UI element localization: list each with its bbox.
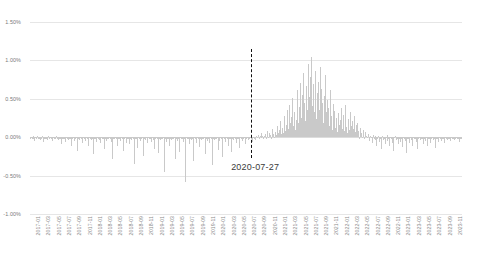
bar [372, 137, 373, 143]
x-tick-label: 2019-05 [179, 216, 185, 235]
bar [398, 137, 399, 144]
bar [212, 137, 213, 165]
bar [100, 137, 101, 143]
bar [263, 137, 264, 139]
bar [409, 137, 410, 143]
x-tick-label: 2021-09 [323, 216, 329, 235]
bar [393, 137, 394, 151]
bar [402, 137, 403, 147]
x-tick-label: 2017-09 [76, 216, 82, 235]
bar [389, 137, 390, 146]
bar [179, 137, 180, 152]
bar [218, 137, 219, 150]
y-tick-label: 1.00% [0, 57, 21, 63]
x-tick-label: 2017-01 [35, 216, 41, 235]
x-tick-label: 2023-03 [416, 216, 422, 235]
x-tick-label: 2023-07 [436, 216, 442, 235]
bar [36, 137, 37, 139]
bar [362, 137, 363, 138]
bar [41, 137, 42, 139]
x-tick-label: 2022-01 [344, 216, 350, 235]
x-tick-label: 2019-09 [200, 216, 206, 235]
x-tick-label: 2022-07 [375, 216, 381, 235]
x-tick-label: 2017-03 [45, 216, 51, 235]
x-tick-label: 2020-07 [251, 216, 257, 235]
bar [236, 137, 237, 142]
bar [123, 137, 124, 151]
bar [158, 137, 159, 153]
x-tick-label: 2020-01 [220, 216, 226, 235]
bar [257, 137, 258, 138]
bar [394, 137, 395, 138]
bar [47, 137, 48, 140]
bar [364, 137, 365, 139]
x-tick-label: 2022-11 [395, 216, 401, 235]
x-tick-label: 2019-01 [159, 216, 165, 235]
x-tick-label: 2019-11 [210, 216, 216, 235]
bar [444, 137, 445, 143]
bar [93, 137, 94, 154]
bar [143, 137, 144, 155]
bar [274, 137, 275, 138]
x-tick-label: 2020-09 [261, 216, 267, 235]
bar [104, 137, 105, 149]
bar [185, 137, 186, 182]
x-tick-label: 2023-09 [447, 216, 453, 235]
bar [112, 137, 113, 159]
bar [55, 137, 56, 139]
bar [189, 137, 190, 144]
x-tick-label: 2017-11 [87, 216, 93, 235]
bar [222, 137, 223, 157]
x-tick-label: 2020-11 [272, 216, 278, 235]
x-tick-label: 2023-11 [457, 216, 463, 235]
x-tick-label: 2017-07 [66, 216, 72, 235]
x-tick-label: 2023-05 [426, 216, 432, 235]
bar [82, 137, 83, 142]
bar [255, 137, 256, 138]
x-tick-label: 2020-03 [231, 216, 237, 235]
x-tick-label: 2021-11 [333, 216, 339, 235]
bar [412, 137, 413, 145]
bar [137, 137, 138, 148]
x-tick-label: 2018-09 [138, 216, 144, 235]
bar [271, 137, 272, 139]
x-tick-label: 2017-05 [56, 216, 62, 235]
bar [386, 137, 387, 138]
x-tick-label: 2023-01 [405, 216, 411, 235]
event-marker-line [251, 49, 252, 158]
y-tick-label: -0.50% [0, 173, 21, 179]
bar [196, 137, 197, 142]
bar [377, 137, 378, 139]
bar [164, 137, 165, 172]
bar [406, 137, 407, 153]
bar [268, 137, 269, 138]
event-marker-label: 2020-07-27 [231, 162, 279, 172]
x-tick-label: 2021-07 [313, 216, 319, 235]
x-tick-label: 2020-05 [241, 216, 247, 235]
x-tick-label: 2019-07 [189, 216, 195, 235]
bar [381, 137, 382, 149]
gridline [30, 214, 462, 215]
y-tick-label: 0.00% [0, 134, 21, 140]
bar [175, 137, 176, 159]
y-tick-label: 1.50% [0, 19, 21, 25]
bar [359, 137, 360, 139]
bar [259, 137, 260, 139]
y-tick-label: 0.50% [0, 96, 21, 102]
bar [266, 137, 267, 139]
bar [77, 137, 78, 151]
bar [193, 137, 194, 161]
bar [375, 137, 376, 140]
x-tick-label: 2018-11 [148, 216, 154, 235]
bar [417, 137, 418, 149]
bar [209, 137, 210, 143]
x-tick-label: 2019-03 [169, 216, 175, 235]
x-tick-label: 2018-07 [128, 216, 134, 235]
bar [261, 137, 262, 138]
x-tick-label: 2018-05 [117, 216, 123, 235]
bar [205, 137, 206, 154]
x-tick-label: 2021-03 [292, 216, 298, 235]
plot-area: 2020-07-27 [30, 22, 462, 214]
bar [461, 137, 462, 139]
x-tick-label: 2021-01 [282, 216, 288, 235]
